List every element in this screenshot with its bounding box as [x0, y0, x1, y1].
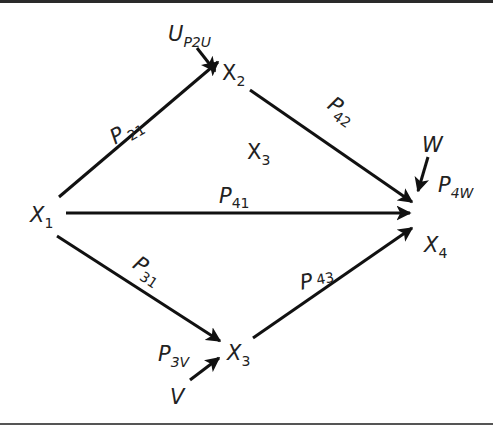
path-diagram: X1 X2 X3 X3 X4 UP2U W V P21 P41 P31 P42 …	[0, 0, 493, 426]
label-p41: P41	[219, 184, 250, 211]
label-p42: P42	[321, 92, 360, 131]
label-p21: P21	[106, 111, 149, 151]
diagram-frame: X1 X2 X3 X3 X4 UP2U W V P21 P41 P31 P42 …	[0, 0, 493, 426]
label-p3v: P3V	[158, 342, 191, 370]
node-x3-middle: X3	[247, 140, 270, 168]
node-x3: X3	[226, 341, 250, 369]
node-w: W	[422, 133, 444, 157]
edge-w-x4	[418, 157, 428, 191]
edge-v-x3	[190, 358, 219, 380]
node-u: UP2U	[168, 22, 211, 50]
label-p43: P43	[298, 265, 336, 295]
node-x2: X2	[222, 61, 245, 89]
node-v: V	[170, 385, 186, 409]
edge-u-x2	[197, 48, 215, 71]
edge-x1-x3	[57, 236, 220, 341]
node-x4: X4	[423, 233, 447, 261]
node-x1: X1	[29, 203, 53, 231]
label-p4w: P4W	[438, 173, 475, 201]
